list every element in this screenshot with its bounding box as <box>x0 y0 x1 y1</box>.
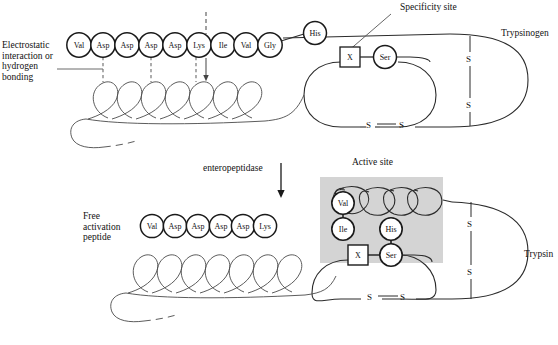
residue-circle: Asp <box>209 214 232 237</box>
residue-label: Asp <box>97 41 110 50</box>
x-label: X <box>347 53 353 62</box>
residue-label: Asp <box>145 41 158 50</box>
residue-circle: Asp <box>186 214 209 237</box>
trypsin-disulfide-s-lower-label: S <box>467 267 472 277</box>
residue-circle: Lys <box>187 33 211 57</box>
specificity-site-label: Specificity site <box>400 2 457 13</box>
trypsin-disulfide-s-upper-label: S <box>467 219 472 229</box>
ile-label: Ile <box>339 225 348 234</box>
trypsinogen-tail-dashed <box>104 141 136 147</box>
trypsin-loop-disulfide-s-right-label: S <box>400 292 405 302</box>
electrostatic-interaction-label: Electrostatic interaction or hydrogen bo… <box>2 40 58 82</box>
ser-residue-circle: Ser <box>374 46 397 69</box>
residue-circle: Gly <box>258 33 282 57</box>
residue-label: Val <box>241 41 252 50</box>
specificity-x-box: X <box>340 47 360 67</box>
residue-circle: Asp <box>163 214 186 237</box>
figure-canvas: S S S S <box>0 0 558 345</box>
trypsinogen-residue-circles: Val Asp Asp Asp Asp Lys Ile Val Gly <box>67 33 282 57</box>
residue-label: Val <box>147 222 158 231</box>
trypsin-title-label: Trypsin <box>524 249 553 260</box>
residue-label: Lys <box>193 41 205 50</box>
residue-label: Asp <box>169 222 182 231</box>
residue-circle: Asp <box>231 214 254 237</box>
loop-disulfide-s-left-label: S <box>366 120 371 130</box>
trypsin-x-label: X <box>355 251 361 260</box>
free-activation-peptide-label: Free activation peptide <box>83 211 143 243</box>
ile-residue-circle: Ile <box>332 218 354 240</box>
residue-label: Asp <box>237 222 250 231</box>
residue-circle: Val <box>234 33 258 57</box>
trypsinogen-group: S S S S <box>57 12 528 148</box>
trypsin-ser-residue-circle: Ser <box>380 244 402 266</box>
disulfide-s-upper-label: S <box>466 54 471 64</box>
residue-label: Asp <box>215 222 228 231</box>
residue-circle: Asp <box>139 33 163 57</box>
residue-circle: Asp <box>91 33 115 57</box>
enteropeptidase-label: enteropeptidase <box>203 163 263 174</box>
val-label: Val <box>338 199 349 208</box>
trypsin-ser-label: Ser <box>386 251 397 260</box>
trypsinogen-coil <box>71 82 304 148</box>
loop-disulfide-s-right-label: S <box>399 120 404 130</box>
residue-circle: Val <box>67 33 91 57</box>
residue-label: Gly <box>264 41 276 50</box>
trypsin-his-residue-circle: His <box>380 218 402 240</box>
trypsin-loop-disulfide-s-left-label: S <box>367 292 372 302</box>
residue-circle: Lys <box>253 214 276 237</box>
residue-circle: Val <box>140 214 163 237</box>
ser-label: Ser <box>380 53 391 62</box>
residue-label: Val <box>74 41 85 50</box>
trypsinogen-title-label: Trypsinogen <box>501 28 549 39</box>
his-residue-circle: His <box>304 22 327 45</box>
residue-label: Ile <box>219 41 228 50</box>
trypsin-group: S S S S <box>111 177 528 322</box>
free-peptide-residue-circles: Val Asp Asp Asp Asp Lys <box>140 214 276 237</box>
residue-circle: Asp <box>115 33 139 57</box>
disulfide-s-lower-label: S <box>466 100 471 110</box>
residue-label: Asp <box>192 222 205 231</box>
residue-label: Lys <box>259 222 271 231</box>
active-site-label: Active site <box>352 157 393 168</box>
trypsinogen-backbone <box>283 34 528 127</box>
residue-label: Asp <box>169 41 182 50</box>
trypsin-coil <box>111 255 336 322</box>
trypsin-tail-dashed <box>144 315 176 321</box>
trypsinogen-activation-diagram: S S S S <box>0 0 558 345</box>
his-label: His <box>309 29 320 38</box>
residue-label: Asp <box>121 41 134 50</box>
residue-circle: Ile <box>211 33 235 57</box>
val-residue-circle: Val <box>332 192 354 214</box>
trypsin-his-label: His <box>385 225 396 234</box>
residue-circle: Asp <box>163 33 187 57</box>
trypsin-specificity-x-box: X <box>348 245 368 265</box>
hydrogen-bond-dashes <box>103 57 196 82</box>
